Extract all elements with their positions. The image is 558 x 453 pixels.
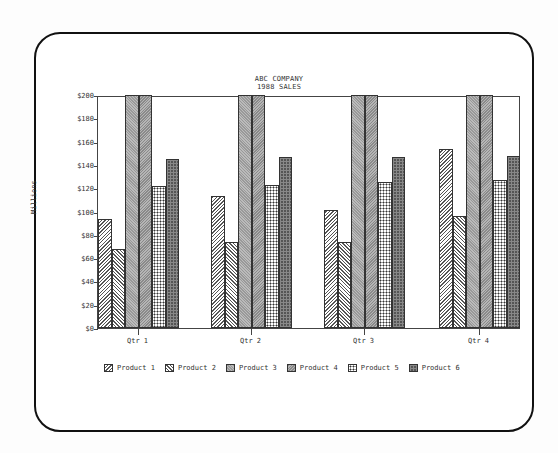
bar-product-4-qtr-4 bbox=[480, 95, 494, 328]
bar-product-3-qtr-3 bbox=[351, 95, 365, 328]
legend-label: Product 6 bbox=[422, 364, 460, 372]
legend-item: Product 2 bbox=[165, 364, 216, 372]
legend-item: Product 6 bbox=[409, 364, 460, 372]
y-tick-label: $160 bbox=[58, 139, 94, 147]
bar-product-2-qtr-3 bbox=[338, 242, 352, 328]
legend-swatch-icon bbox=[409, 364, 418, 372]
bar-product-5-qtr-2 bbox=[265, 185, 279, 328]
x-tick-mark bbox=[138, 329, 139, 335]
legend-swatch-icon bbox=[348, 364, 357, 372]
x-tick-label: Qtr 3 bbox=[334, 337, 394, 345]
legend-swatch-icon bbox=[104, 364, 113, 372]
bar-product-2-qtr-2 bbox=[225, 242, 239, 328]
y-tick-label: $180 bbox=[58, 115, 94, 123]
bar-product-3-qtr-2 bbox=[238, 95, 252, 328]
bar-product-2-qtr-1 bbox=[112, 249, 126, 328]
legend-label: Product 3 bbox=[239, 364, 277, 372]
bar-product-1-qtr-2 bbox=[211, 196, 225, 328]
legend-swatch-icon bbox=[226, 364, 235, 372]
plot-area bbox=[97, 96, 520, 329]
legend-item: Product 5 bbox=[348, 364, 399, 372]
x-tick-mark bbox=[251, 329, 252, 335]
bar-product-6-qtr-4 bbox=[507, 156, 521, 328]
legend-label: Product 4 bbox=[300, 364, 338, 372]
x-tick-label: Qtr 1 bbox=[108, 337, 168, 345]
legend-label: Product 5 bbox=[361, 364, 399, 372]
bar-product-6-qtr-3 bbox=[392, 157, 406, 328]
bar-product-1-qtr-4 bbox=[439, 149, 453, 328]
bar-product-2-qtr-4 bbox=[453, 216, 467, 328]
bar-product-6-qtr-1 bbox=[166, 159, 180, 328]
x-tick-mark bbox=[364, 329, 365, 335]
legend-label: Product 2 bbox=[178, 364, 216, 372]
chart-subtitle: 1988 SALES bbox=[0, 83, 558, 91]
y-axis-label: Millions bbox=[30, 180, 38, 214]
bar-product-4-qtr-1 bbox=[139, 95, 153, 328]
legend-label: Product 1 bbox=[117, 364, 155, 372]
bar-product-4-qtr-3 bbox=[365, 95, 379, 328]
x-tick-label: Qtr 2 bbox=[221, 337, 281, 345]
bar-product-5-qtr-3 bbox=[378, 182, 392, 328]
legend-item: Product 3 bbox=[226, 364, 277, 372]
x-tick-label: Qtr 4 bbox=[449, 337, 509, 345]
y-tick-label: $40 bbox=[58, 278, 94, 286]
x-tick-mark bbox=[479, 329, 480, 335]
bar-product-4-qtr-2 bbox=[252, 95, 266, 328]
y-tick-label: $100 bbox=[58, 209, 94, 217]
bar-product-3-qtr-1 bbox=[125, 95, 139, 328]
bar-product-6-qtr-2 bbox=[279, 157, 293, 328]
legend-swatch-icon bbox=[165, 364, 174, 372]
y-tick-label: $0 bbox=[58, 325, 94, 333]
bar-product-3-qtr-4 bbox=[466, 95, 480, 328]
y-tick-mark bbox=[94, 329, 98, 330]
y-tick-label: $20 bbox=[58, 302, 94, 310]
bar-product-1-qtr-3 bbox=[324, 210, 338, 328]
chart-title: ABC COMPANY bbox=[0, 75, 558, 83]
legend-item: Product 1 bbox=[104, 364, 155, 372]
bar-product-5-qtr-4 bbox=[493, 180, 507, 328]
legend-swatch-icon bbox=[287, 364, 296, 372]
bar-product-1-qtr-1 bbox=[98, 219, 112, 329]
legend-item: Product 4 bbox=[287, 364, 338, 372]
y-tick-label: $120 bbox=[58, 185, 94, 193]
y-tick-label: $80 bbox=[58, 232, 94, 240]
legend: Product 1Product 2Product 3Product 4Prod… bbox=[104, 364, 460, 372]
y-tick-label: $60 bbox=[58, 255, 94, 263]
y-tick-label: $140 bbox=[58, 162, 94, 170]
bar-product-5-qtr-1 bbox=[152, 186, 166, 328]
y-tick-label: $200 bbox=[58, 92, 94, 100]
